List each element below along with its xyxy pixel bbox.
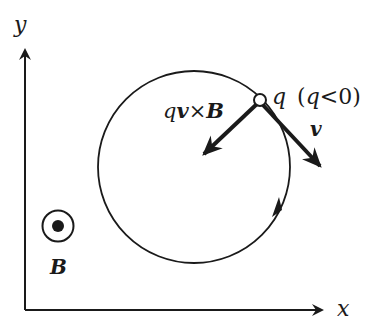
charge-condition-close: ) (352, 84, 361, 109)
charge-symbol: q (272, 84, 286, 109)
charge-condition-val: 0 (338, 84, 352, 109)
force-label-q: q (163, 99, 176, 123)
field-label: B (49, 255, 67, 279)
charge-point-icon (254, 94, 266, 106)
force-label: qv×B (163, 98, 224, 123)
charge-label: q (q<0) (272, 84, 361, 109)
force-label-times: × (189, 99, 207, 123)
charge-condition-open: ( (297, 84, 306, 109)
magnetic-field-out-of-page-icon (43, 211, 74, 242)
force-label-b: B (205, 98, 224, 123)
force-label-v: v (176, 98, 189, 123)
velocity-label: v (310, 117, 322, 141)
charge-condition-op: < (320, 84, 338, 109)
charge-condition-q: q (306, 84, 320, 109)
diagram-canvas: y x B q (q<0) qv×B v (0, 0, 365, 335)
y-axis-label: y (13, 12, 27, 37)
diagram-svg: y x B q (q<0) qv×B v (0, 0, 365, 335)
x-axis-label: x (337, 296, 350, 321)
